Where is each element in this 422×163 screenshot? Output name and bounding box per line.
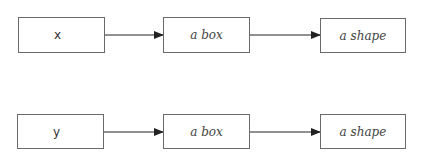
node-x-label: x bbox=[54, 28, 61, 42]
node-a-shape-2: a shape bbox=[320, 114, 406, 149]
node-a-shape-2-label: a shape bbox=[340, 125, 387, 139]
node-a-box-1: a box bbox=[163, 17, 250, 53]
node-a-box-2-label: a box bbox=[190, 125, 223, 139]
node-a-box-1-label: a box bbox=[190, 28, 223, 42]
node-a-box-2: a box bbox=[163, 114, 250, 149]
node-x: x bbox=[18, 17, 105, 53]
node-a-shape-1-label: a shape bbox=[340, 29, 387, 43]
node-y-label: y bbox=[53, 125, 60, 139]
node-y: y bbox=[17, 114, 104, 149]
node-a-shape-1: a shape bbox=[320, 18, 406, 53]
